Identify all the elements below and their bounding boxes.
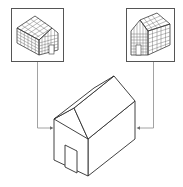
- left-inset-box: [12, 9, 64, 62]
- diagram-canvas: [0, 0, 183, 187]
- isometric-house-drawing: [54, 76, 135, 176]
- right-connector-arrow: [137, 62, 154, 130]
- right-icon-door: [136, 45, 141, 55]
- right-inset-box: [127, 9, 175, 62]
- left-icon-door: [49, 45, 54, 54]
- left-connector-arrow: [38, 62, 54, 130]
- arrowhead-left-icon: [137, 126, 141, 129]
- arrowhead-right-icon: [50, 126, 54, 129]
